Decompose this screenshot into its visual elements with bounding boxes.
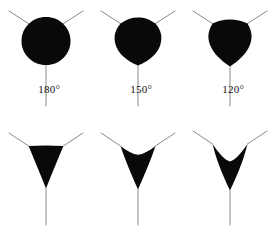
arm-upper-right bbox=[63, 11, 83, 24]
panel-grid: 180° 150° 120° bbox=[0, 0, 276, 238]
angle-label-120: 120° bbox=[184, 84, 244, 95]
shape-panel-150: 150° bbox=[92, 0, 184, 119]
shape-diagram-180 bbox=[0, 0, 92, 119]
shape-body-circle bbox=[22, 17, 71, 65]
shape-panel-0: 0° bbox=[184, 119, 276, 238]
arm-upper-right bbox=[155, 11, 175, 24]
angle-label-180: 180° bbox=[0, 84, 60, 95]
arm-upper-left bbox=[9, 133, 29, 146]
shape-panel-120: 120° bbox=[184, 0, 276, 119]
shape-diagram-120 bbox=[184, 0, 276, 119]
arm-upper-right bbox=[155, 133, 175, 146]
arm-upper-left bbox=[193, 11, 213, 24]
angle-label-150: 150° bbox=[92, 84, 152, 95]
shape-diagram-0 bbox=[184, 119, 276, 238]
shape-body-rounded-triangle bbox=[115, 17, 162, 65]
shape-panel-60: 60° bbox=[0, 119, 92, 238]
arm-upper-right bbox=[63, 133, 83, 146]
shape-body-rounded-triangle bbox=[208, 19, 251, 66]
shape-body-deltoid bbox=[213, 144, 248, 191]
arm-upper-left bbox=[193, 131, 213, 144]
arm-upper-right bbox=[247, 131, 267, 144]
arm-upper-right bbox=[247, 11, 267, 24]
shape-diagram-30 bbox=[92, 119, 184, 238]
arm-upper-left bbox=[101, 133, 121, 146]
shape-diagram-60 bbox=[0, 119, 92, 238]
shape-panel-30: 30° bbox=[92, 119, 184, 238]
arm-upper-left bbox=[9, 11, 29, 24]
shape-body-triangle bbox=[29, 145, 64, 188]
arm-upper-left bbox=[101, 11, 121, 24]
figure-root: 180° 150° 120° bbox=[0, 0, 276, 238]
shape-body-concave-triangle bbox=[121, 146, 156, 190]
shape-panel-180: 180° bbox=[0, 0, 92, 119]
shape-diagram-150 bbox=[92, 0, 184, 119]
